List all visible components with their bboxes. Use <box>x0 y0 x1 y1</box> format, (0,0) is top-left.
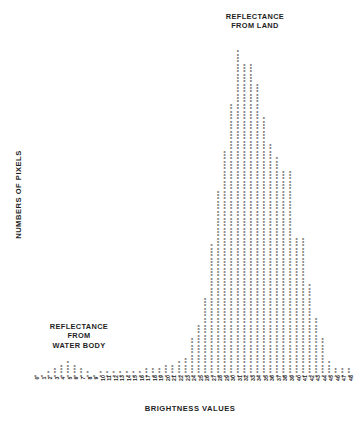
x-tick-label: 48 <box>346 378 351 400</box>
histogram-column: XXXXXXXXXXXXXXXXXXXXXXXXXXXXXXXXXXXXXXXX… <box>216 191 221 378</box>
x-tick-label: 27 <box>209 378 214 400</box>
histogram-column: XXXXXXXXXXXXXXXXXXXXXXXXXXXXXXXXXXXXXXXX… <box>242 64 247 378</box>
histogram-column: XXXXXXXXXXXXXXXXXXXXXXXXXXXXXXXXXXXXXXXX… <box>268 144 273 378</box>
histogram-figure: REFLECTANCE FROM LAND REFLECTANCE FROM W… <box>0 0 359 423</box>
histogram-column: XXXXXXXXXXXX <box>190 338 195 378</box>
histogram-column: XXXXXXXXXXXXXXXXXXXXXXXXXXXXXXXXXXXXXXXX… <box>235 50 240 378</box>
x-tick-label: 38 <box>281 378 286 400</box>
histogram-column: XXXXXXXXXXXXXXXXXXXXXXXXXXXXXXXXXXXXXXXX… <box>288 171 293 378</box>
x-tick-label: 16 <box>137 378 142 400</box>
x-tick-label: 21 <box>170 378 175 400</box>
histogram-column: XXXXXXXXXXXXXXXXXXXXXXXXXXXXXXXXXXXXXXXX… <box>255 84 260 378</box>
histogram-column: XXXXXXXXXXXXXXXXXXXXXXXXXXXXXXXXXXXXXXXX… <box>229 104 234 378</box>
x-tick-label: 32 <box>242 378 247 400</box>
plot-area: XXXXXXXXXXXXXXXXXXXXXXXXXXXXXXXXXXXXXXXX… <box>33 40 353 378</box>
annotation-reflectance-from-land: REFLECTANCE FROM LAND <box>196 12 314 31</box>
histogram-column: XXXXXXXXXXXXXXXXXXXXXXXXXXXXXXXXXXXXXXXX… <box>281 171 286 378</box>
x-tick-label: 26 <box>203 378 208 400</box>
histogram-column: XXXXXXXXXXXXXXXXXXXXXXXXXXXXXXXXXXXXXXXX… <box>294 238 299 378</box>
x-tick-label: 22 <box>177 378 182 400</box>
x-tick-label-text: 48 <box>349 375 354 381</box>
x-tick-label: 25 <box>196 378 201 400</box>
x-tick-label: 2 <box>46 378 51 400</box>
x-tick-label: 29 <box>222 378 227 400</box>
x-tick-label: 40 <box>294 378 299 400</box>
x-tick-label: 5 <box>66 378 71 400</box>
histogram-column: XXXXXXXXXXXX <box>320 338 325 378</box>
x-tick-label: 39 <box>288 378 293 400</box>
histogram-column: XXXXXXXXXXXXXXXXXXXXXXXX <box>203 298 208 378</box>
x-tick-label: 34 <box>255 378 260 400</box>
x-tick-label: 45 <box>327 378 332 400</box>
x-tick-label: 3 <box>53 378 58 400</box>
x-tick-label: 10 <box>98 378 103 400</box>
y-axis-title: NUMBERS OF PIXELS <box>14 130 23 260</box>
x-tick-label: 44 <box>320 378 325 400</box>
x-tick-label: 11 <box>105 378 110 400</box>
histogram-column: XXXXXXXXXXXXXXXXXX <box>314 318 319 378</box>
x-tick-label: 42 <box>307 378 312 400</box>
x-tick-label: 35 <box>262 378 267 400</box>
histogram-column: XXXXXXXXXXXXXXXXXXXXXXXXXXXXXXXXXXXXXXXX… <box>275 157 280 378</box>
x-tick-label: 31 <box>235 378 240 400</box>
x-tick-label: 15 <box>131 378 136 400</box>
x-tick-label: 4 <box>59 378 64 400</box>
x-tick-label: 23 <box>183 378 188 400</box>
x-tick-label: 33 <box>249 378 254 400</box>
histogram-column: XXXXXXXXXXXXXXXXXXXXXXXXXXXXXXXXXXXXXXXX… <box>249 64 254 378</box>
x-tick-label: 18 <box>151 378 156 400</box>
x-tick-label: 12 <box>111 378 116 400</box>
x-tick-label: 36 <box>268 378 273 400</box>
x-tick-label: 17 <box>144 378 149 400</box>
x-tick-label: 28 <box>216 378 221 400</box>
x-tick-label: 14 <box>124 378 129 400</box>
x-tick-label: 24 <box>190 378 195 400</box>
x-tick-label: 7 <box>79 378 84 400</box>
x-tick-label: 37 <box>275 378 280 400</box>
histogram-column: XXXXXXXXXXXXXXXXXXXXXXXXXXXXXXXXXXXXXXXX <box>209 244 214 378</box>
x-tick-label: 41 <box>301 378 306 400</box>
histogram-column: XXXXXXXXXXXXXXXXXXXXXXXXXXXXXXXXXXXXXXXX… <box>222 151 227 378</box>
x-tick-label: 1 <box>40 378 45 400</box>
x-tick-label: 0 <box>33 378 38 400</box>
x-tick-label: 19 <box>157 378 162 400</box>
x-tick-label: 46 <box>333 378 338 400</box>
histogram-column: XXXXXXXXXXXXXXXX <box>196 325 201 379</box>
x-tick-label: 43 <box>314 378 319 400</box>
x-tick-label: 47 <box>340 378 345 400</box>
x-tick-label: 8 <box>85 378 90 400</box>
histogram-column: XXXXXXXXXXXXXXXXXXXXXXXXXXXXXXXXXXXXXXXX… <box>301 238 306 378</box>
histogram-column: XXXXXXXXXXXXXXXXXXXXXXXXXXXX <box>307 284 312 378</box>
x-axis-title: BRIGHTNESS VALUES <box>110 404 270 413</box>
x-tick-label: 20 <box>164 378 169 400</box>
histogram-column: XXXXXXXXXXXXXXXXXXXXXXXXXXXXXXXXXXXXXXXX… <box>262 117 267 378</box>
x-tick-label: 30 <box>229 378 234 400</box>
x-axis-tick-labels: 0123456789101112131415161718192021222324… <box>33 378 353 402</box>
x-tick-label: 6 <box>72 378 77 400</box>
x-tick-label: 13 <box>118 378 123 400</box>
x-tick-label: 9 <box>92 378 97 400</box>
